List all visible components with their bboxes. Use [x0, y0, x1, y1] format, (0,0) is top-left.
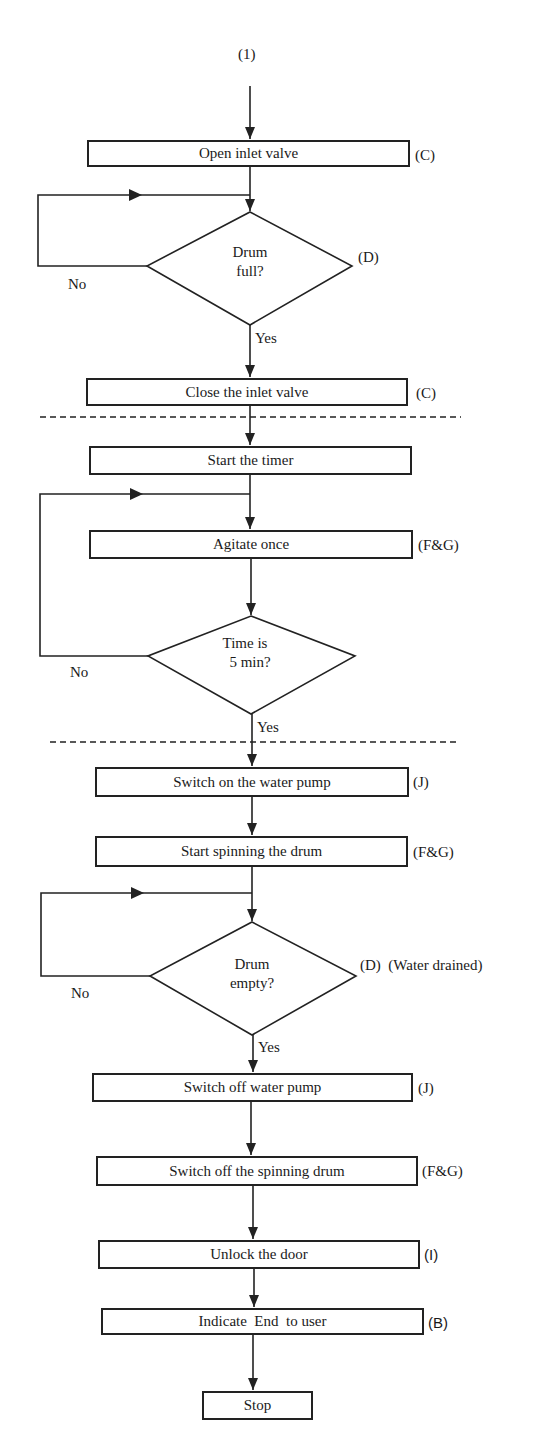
step-label: Close the inlet valve — [186, 385, 309, 400]
step-tag: (B) — [428, 1315, 448, 1330]
no-label: No — [71, 986, 89, 1001]
decision-time-check: Time is 5 min? — [185, 634, 305, 672]
decision-line2: full? — [190, 262, 310, 281]
decision-line1: Drum — [192, 955, 312, 974]
step-pump-off: Switch off water pump — [92, 1073, 413, 1102]
decision-tag: (D) — [358, 250, 379, 265]
decision-tag: (D) (Water drained) — [360, 958, 482, 973]
step-tag: (F&G) — [418, 538, 459, 553]
step-agitate-once: Agitate once — [89, 530, 413, 559]
yes-label: Yes — [258, 1040, 280, 1055]
step-label: Switch off water pump — [184, 1080, 322, 1095]
step-tag: (C) — [416, 386, 436, 401]
step-open-inlet-valve: Open inlet valve — [87, 140, 410, 167]
step-unlock-door: Unlock the door — [98, 1240, 420, 1269]
no-label: No — [68, 277, 86, 292]
step-label: Unlock the door — [210, 1247, 307, 1262]
step-label: Switch on the water pump — [173, 775, 330, 790]
step-close-inlet-valve: Close the inlet valve — [86, 378, 408, 406]
decision-drum-full: Drum full? — [190, 243, 310, 281]
step-pump-on: Switch on the water pump — [95, 767, 409, 797]
step-label: Start the timer — [208, 453, 294, 468]
decision-line2: 5 min? — [185, 653, 305, 672]
step-tag: (I) — [424, 1247, 438, 1262]
step-tag: (F&G) — [413, 845, 454, 860]
step-label: Indicate End to user — [199, 1314, 327, 1329]
decision-line2: empty? — [192, 974, 312, 993]
step-spin-off: Switch off the spinning drum — [96, 1156, 418, 1186]
step-label: Open inlet valve — [199, 146, 298, 161]
step-tag: (C) — [415, 148, 435, 163]
yes-label: Yes — [257, 720, 279, 735]
step-label: Start spinning the drum — [181, 844, 322, 859]
step-indicate-end: Indicate End to user — [101, 1308, 424, 1335]
decision-drum-empty: Drum empty? — [192, 955, 312, 993]
start-connector-label: (1) — [238, 47, 256, 62]
step-tag: (F&G) — [422, 1164, 463, 1179]
step-label: Agitate once — [213, 537, 289, 552]
step-tag: (J) — [418, 1081, 434, 1096]
step-spin-start: Start spinning the drum — [95, 836, 408, 867]
decision-line1: Drum — [190, 243, 310, 262]
yes-label: Yes — [255, 331, 277, 346]
no-label: No — [70, 665, 88, 680]
flowchart-connectors — [0, 0, 559, 1445]
step-tag: (J) — [413, 775, 429, 790]
decision-line1: Time is — [185, 634, 305, 653]
terminal-stop: Stop — [202, 1391, 313, 1420]
step-label: Switch off the spinning drum — [169, 1164, 345, 1179]
step-start-timer: Start the timer — [89, 446, 412, 475]
step-label: Stop — [244, 1398, 272, 1413]
